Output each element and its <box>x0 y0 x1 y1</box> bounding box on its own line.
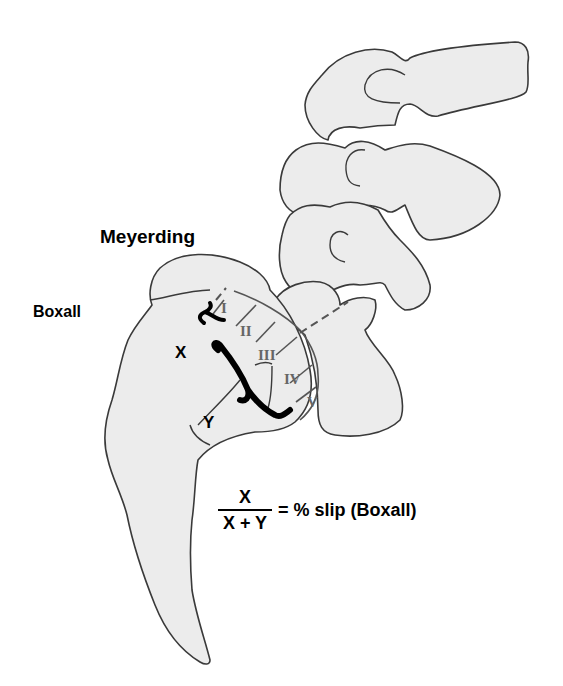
spine-illustration <box>0 0 563 686</box>
grade-3-label: III <box>258 347 276 364</box>
grade-2-label: II <box>240 323 252 340</box>
diagram-canvas: Meyerding Boxall X Y I II III IV V X X +… <box>0 0 563 686</box>
formula-denominator: X + Y <box>223 513 267 533</box>
formula-fraction: X X + Y <box>218 487 272 533</box>
meyerding-label: Meyerding <box>100 226 195 248</box>
vertebra-top <box>305 42 528 140</box>
x-label: X <box>175 343 186 363</box>
boxall-formula: X X + Y = % slip (Boxall) <box>218 487 417 533</box>
grade-4-label: IV <box>284 371 301 388</box>
grade-5-label: V <box>307 394 318 411</box>
sacrum <box>105 254 311 664</box>
formula-numerator: X <box>239 487 251 507</box>
boxall-label: Boxall <box>33 303 81 321</box>
y-label: Y <box>203 413 214 433</box>
formula-result: = % slip (Boxall) <box>278 500 417 521</box>
fraction-bar <box>218 509 272 511</box>
grade-1-label: I <box>221 300 227 317</box>
